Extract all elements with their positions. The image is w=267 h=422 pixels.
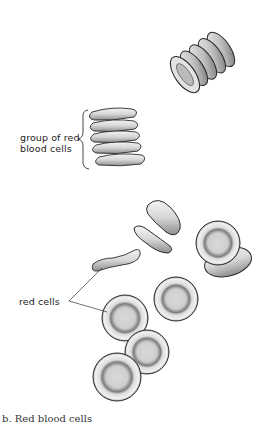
side-view-cells [92,200,180,271]
label-line-1: group of red [20,132,80,143]
label-red-cells: red cells [19,296,60,307]
rouleau-stack-top [165,27,241,98]
label-line-2: blood cells [20,143,80,154]
brace [78,110,89,169]
face-on-cells [93,277,198,401]
red-cells-leader-lines [69,268,107,312]
figure-caption: b. Red blood cells [2,414,92,422]
red-blood-cells-illustration [0,0,267,422]
overlapping-cells-right [196,221,255,282]
rouleau-stack-left [78,108,145,169]
label-group-of-red-blood-cells: group of red blood cells [20,132,80,154]
